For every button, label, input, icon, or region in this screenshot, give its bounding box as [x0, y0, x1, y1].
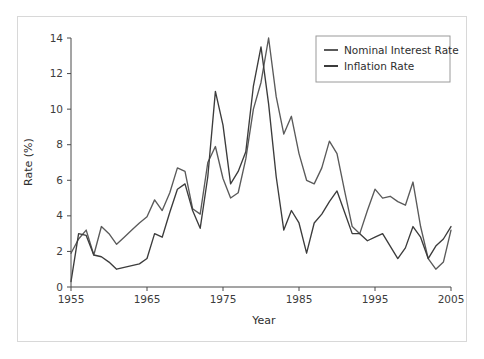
legend-label-0: Nominal Interest Rate — [344, 44, 459, 56]
y-tick-label: 12 — [50, 67, 63, 79]
x-tick-label: 1975 — [210, 293, 237, 305]
x-tick-label: 2005 — [438, 293, 465, 305]
y-tick-label: 4 — [56, 209, 63, 221]
x-axis-title: Year — [251, 314, 276, 327]
y-tick-labels: 02468101214 — [50, 32, 64, 293]
line-chart: 195519651975198519952005 02468101214 Yea… — [0, 0, 484, 359]
x-tick-label: 1995 — [362, 293, 389, 305]
legend-label-1: Inflation Rate — [344, 60, 414, 72]
x-tick-label: 1955 — [58, 293, 85, 305]
y-tick-label: 0 — [56, 281, 63, 293]
y-tick-label: 10 — [50, 103, 63, 115]
x-tick-label: 1965 — [134, 293, 161, 305]
x-tick-labels: 195519651975198519952005 — [58, 293, 465, 305]
x-tick-label: 1985 — [286, 293, 313, 305]
figure-root: 195519651975198519952005 02468101214 Yea… — [0, 0, 484, 359]
y-tick-label: 14 — [50, 32, 64, 44]
y-tick-label: 6 — [56, 174, 63, 186]
chart-legend: Nominal Interest RateInflation Rate — [316, 36, 459, 82]
y-tick-label: 2 — [56, 245, 63, 257]
y-tick-label: 8 — [56, 138, 63, 150]
y-axis-title: Rate (%) — [22, 138, 35, 186]
